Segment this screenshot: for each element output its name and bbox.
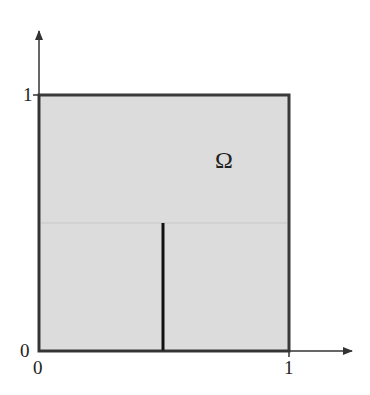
x-tick-label-0: 0 bbox=[33, 357, 43, 378]
y-tick-label-0: 0 bbox=[20, 340, 30, 361]
y-tick-label-1: 1 bbox=[23, 84, 33, 105]
omega-label: Ω bbox=[215, 147, 233, 173]
domain-diagram: 1 0 0 1 Ω bbox=[0, 0, 370, 395]
x-tick-label-1: 1 bbox=[284, 357, 294, 378]
